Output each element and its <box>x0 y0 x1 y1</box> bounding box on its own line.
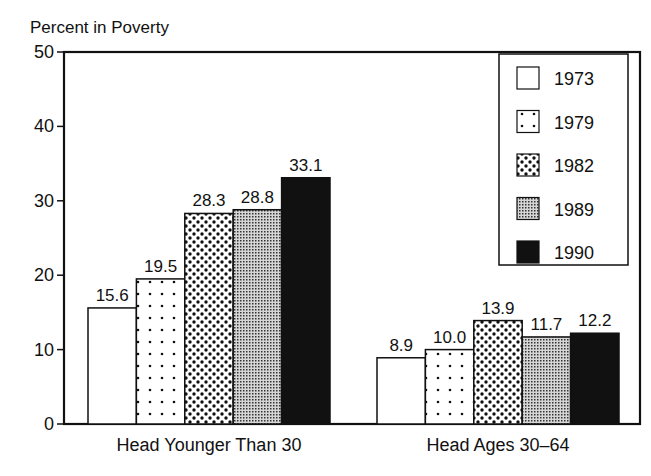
y-tick-label: 40 <box>34 116 54 136</box>
bar-1982 <box>474 321 522 424</box>
value-label: 15.6 <box>96 286 129 305</box>
y-tick-label: 50 <box>34 42 54 62</box>
category-label: Head Ages 30–64 <box>426 435 569 455</box>
value-label: 10.0 <box>433 328 466 347</box>
bar-chart: 0102030405015.619.528.328.833.1Head Youn… <box>0 0 651 476</box>
legend-label: 1973 <box>554 69 594 89</box>
value-label: 12.2 <box>578 311 611 330</box>
bar-1973 <box>377 358 425 424</box>
value-label: 28.8 <box>241 188 274 207</box>
bar-1979 <box>425 350 473 424</box>
value-label: 11.7 <box>530 315 562 334</box>
legend-swatch-1982 <box>517 154 539 176</box>
y-tick-label: 20 <box>34 265 54 285</box>
bar-1979 <box>136 279 184 424</box>
value-label: 33.1 <box>289 156 322 175</box>
legend-label: 1990 <box>554 243 594 263</box>
legend-swatch-1990 <box>517 241 539 263</box>
legend-label: 1982 <box>554 156 594 176</box>
value-label: 8.9 <box>389 336 413 355</box>
value-label: 19.5 <box>144 257 177 276</box>
legend-swatch-1979 <box>517 111 539 133</box>
legend-label: 1989 <box>554 200 594 220</box>
y-tick-label: 30 <box>34 191 54 211</box>
y-tick-label: 10 <box>34 340 54 360</box>
value-label: 28.3 <box>192 191 225 210</box>
category-label: Head Younger Than 30 <box>117 435 302 455</box>
y-tick-label: 0 <box>44 414 54 434</box>
bar-1982 <box>185 213 233 424</box>
legend-swatch-1973 <box>517 67 539 89</box>
bar-1990 <box>571 333 619 424</box>
bar-1990 <box>282 178 330 424</box>
bar-1989 <box>522 337 570 424</box>
bar-1973 <box>88 308 136 424</box>
legend-swatch-1989 <box>517 198 539 220</box>
value-label: 13.9 <box>481 299 514 318</box>
legend-label: 1979 <box>554 113 594 133</box>
bar-1989 <box>233 210 281 424</box>
